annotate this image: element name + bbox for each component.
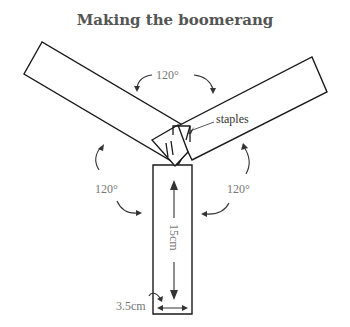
angle-top-label: 120° — [156, 68, 179, 82]
angle-right-label: 120° — [227, 182, 250, 196]
angle-right-arrows — [205, 147, 249, 214]
right-arm — [176, 57, 327, 160]
arrowhead-icon — [241, 143, 248, 150]
length-label: 15cm — [167, 224, 181, 251]
angle-left-arrows — [96, 147, 138, 213]
boomerang-diagram: staples 120° 120° 120° 15cm 3.5cm — [0, 0, 350, 327]
arrowhead-icon — [210, 88, 216, 94]
arrowhead-icon — [201, 211, 207, 217]
staples-label: staples — [216, 112, 249, 126]
width-label: 3.5cm — [116, 299, 146, 313]
arrowhead-icon — [134, 86, 140, 92]
angle-left-label: 120° — [95, 182, 118, 196]
arrowhead-icon — [136, 210, 142, 216]
